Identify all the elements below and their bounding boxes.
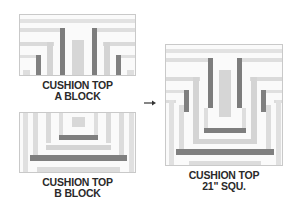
block-b-label-line2: B BLOCK (19, 188, 136, 199)
stripe (237, 58, 242, 108)
stripe (20, 28, 64, 32)
cushion-top-b-block-diagram (19, 112, 136, 173)
stripe (119, 113, 124, 155)
stripe (184, 90, 189, 112)
stripe (166, 58, 210, 62)
stripe (72, 117, 85, 127)
stripe (60, 28, 65, 76)
stripe (33, 113, 38, 155)
stripe (46, 145, 111, 150)
stripe (92, 28, 97, 76)
stripe (94, 113, 98, 135)
stripe (37, 167, 120, 172)
stripe (72, 40, 84, 76)
stripe (240, 58, 283, 62)
stripe (30, 155, 127, 161)
stripe (261, 90, 266, 112)
stripe (251, 77, 257, 139)
combined-label: CUSHION TOP 21" SQU. (165, 170, 283, 192)
stripe (106, 113, 111, 143)
stripe (36, 55, 41, 76)
stripe (23, 113, 28, 173)
stripe (204, 128, 246, 133)
stripe (176, 149, 274, 155)
stripe (189, 161, 261, 166)
stripe (208, 58, 213, 108)
cushion-top-a-block-diagram (19, 14, 136, 76)
stripe (219, 70, 231, 117)
stripe (59, 113, 63, 135)
stripe (263, 90, 283, 93)
stripe (204, 108, 208, 128)
stripe (93, 28, 136, 32)
stripe (166, 49, 283, 53)
cushion-top-21-square-diagram (165, 44, 283, 166)
stripe (47, 42, 53, 76)
stripe (276, 100, 281, 166)
stripe (23, 70, 30, 76)
arrow-right-icon (144, 100, 156, 106)
block-a-label: CUSHION TOP A BLOCK (19, 80, 136, 102)
stripe (129, 113, 134, 173)
stripe (127, 70, 134, 76)
stripe (59, 135, 98, 140)
stripe (242, 108, 246, 128)
block-a-label-line2: A BLOCK (19, 91, 136, 102)
stripe (169, 100, 174, 166)
stripe (116, 55, 121, 76)
combined-label-line2: 21" SQU. (165, 181, 283, 192)
stripe (104, 42, 110, 76)
stripe (193, 139, 257, 144)
stripe (20, 19, 136, 23)
stripe (193, 77, 199, 139)
block-b-label: CUSHION TOP B BLOCK (19, 177, 136, 199)
stripe (266, 105, 271, 149)
stripe (46, 113, 51, 143)
